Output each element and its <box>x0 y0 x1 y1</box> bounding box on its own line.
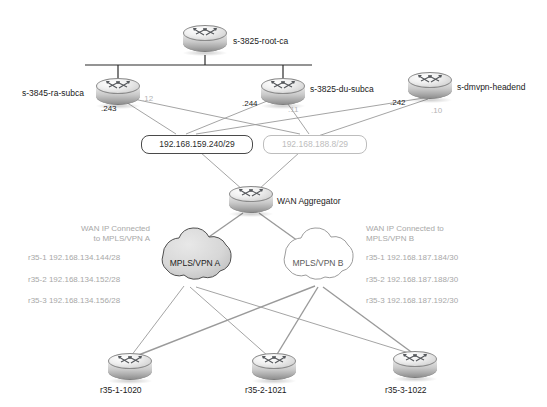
wan-ip-block-vpn-b: WAN IP Connected to MPLS/VPN B r35-1 192… <box>366 224 496 318</box>
wan-ip-block-vpn-a: WAN IP Connected to MPLS/VPN A r35-1 192… <box>28 224 150 318</box>
router-arrows-icon <box>268 79 298 91</box>
wan-ip-block-vpn-b-header-line2: MPLS/VPN B <box>366 234 496 244</box>
router-wan-aggregator[interactable] <box>229 186 273 216</box>
router-dmvpn-headend[interactable] <box>408 72 452 102</box>
network-topology-diagram: s-3825-root-ca s-3845-ra-subca <box>0 0 547 407</box>
interface-label-11: .11 <box>288 105 299 114</box>
interface-label-244: .244 <box>242 99 258 108</box>
router-root-ca-label: s-3825-root-ca <box>233 36 288 46</box>
router-arrows-icon <box>400 352 430 364</box>
router-r35-3-1022[interactable] <box>393 351 437 381</box>
router-r35-1-1020[interactable] <box>108 353 152 383</box>
router-arrows-icon <box>103 79 133 91</box>
router-r35-2-1021[interactable] <box>252 353 296 383</box>
cloud-shape-a <box>162 228 231 279</box>
router-arrows-icon <box>259 354 289 366</box>
wan-ip-row: r35-3 192.168.187.192/30 <box>366 296 496 306</box>
router-arrows-icon <box>190 26 220 38</box>
connection-lines <box>0 0 547 407</box>
wan-ip-row: r35-1 192.168.187.184/30 <box>366 253 496 263</box>
subnet-box-left[interactable]: 192.168.159.240/29 <box>141 135 253 154</box>
wan-ip-block-vpn-b-header: WAN IP Connected to MPLS/VPN B <box>366 224 496 243</box>
interface-label-12: .12 <box>142 94 153 103</box>
router-ra-subca-label: s-3845-ra-subca <box>22 88 84 98</box>
router-arrows-icon <box>115 354 145 366</box>
interface-label-10: .10 <box>431 106 442 115</box>
router-du-subca-label: s-3825-du-subca <box>310 84 374 94</box>
cloud-shape-b <box>284 228 353 279</box>
wan-ip-row: r35-1 192.168.134.144/28 <box>28 253 150 263</box>
interface-label-242: .242 <box>390 98 406 107</box>
wan-ip-row: r35-2 192.168.134.152/28 <box>28 275 150 285</box>
wan-ip-block-vpn-a-header-line1: WAN IP Connected <box>28 224 150 234</box>
router-r35-3-1022-label: r35-3-1022 <box>385 385 427 395</box>
wan-ip-row: r35-3 192.168.134.156/28 <box>28 296 150 306</box>
router-arrows-icon <box>415 73 445 85</box>
interface-label-243: .243 <box>101 104 117 113</box>
router-r35-1-1020-label: r35-1-1020 <box>100 385 142 395</box>
cloud-b-label: MPLS/VPN B <box>278 258 358 268</box>
wan-ip-block-vpn-a-header: WAN IP Connected to MPLS/VPN A <box>28 224 150 243</box>
subnet-box-right[interactable]: 192.168.188.8/29 <box>263 135 367 154</box>
router-r35-2-1021-label: r35-2-1021 <box>245 385 287 395</box>
router-wan-aggregator-label: WAN Aggregator <box>277 196 340 206</box>
wan-ip-block-vpn-a-header-line2: to MPLS/VPN A <box>28 234 150 244</box>
cloud-a-label: MPLS/VPN A <box>155 258 235 268</box>
router-arrows-icon <box>236 187 266 199</box>
wan-ip-block-vpn-b-header-line1: WAN IP Connected to <box>366 224 496 234</box>
router-dmvpn-headend-label: s-dmvpn-headend <box>457 82 526 92</box>
router-du-subca[interactable] <box>261 78 305 108</box>
router-root-ca[interactable] <box>183 25 227 55</box>
wan-ip-row: r35-2 192.168.187.188/30 <box>366 275 496 285</box>
